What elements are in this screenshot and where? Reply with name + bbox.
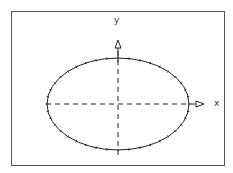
x-axis-label: x xyxy=(214,98,219,108)
y-axis-label: y xyxy=(114,15,119,25)
ellipse-diagram xyxy=(0,0,233,173)
x-axis-arrow-icon xyxy=(196,101,204,107)
y-axis-arrow-icon xyxy=(115,40,121,48)
